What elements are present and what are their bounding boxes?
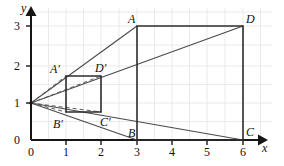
x-axis-label: x — [261, 141, 268, 155]
y-tick-label-3: 3 — [14, 19, 20, 33]
y-tick-label-1: 1 — [14, 96, 20, 110]
label-C: C — [246, 125, 255, 139]
center-of-projection-point — [29, 101, 33, 105]
geometry-figure: y x 3 2 1 0 0 1 2 3 4 5 6 A D B C A′ D′ … — [0, 0, 284, 166]
x-tick-label-2: 2 — [98, 145, 104, 159]
figure-background — [0, 0, 284, 166]
figure-canvas: y x 3 2 1 0 0 1 2 3 4 5 6 A D B C A′ D′ … — [0, 0, 284, 166]
x-tick-label-0: 0 — [28, 145, 34, 159]
x-tick-label-4: 4 — [169, 145, 175, 159]
x-tick-label-6: 6 — [240, 145, 246, 159]
y-tick-label-0: 0 — [14, 133, 20, 147]
label-C-prime: C′ — [100, 115, 111, 129]
label-B: B — [128, 126, 136, 140]
x-tick-label-1: 1 — [63, 145, 69, 159]
label-B-prime: B′ — [53, 117, 63, 131]
label-A: A — [127, 12, 136, 26]
y-tick-label-2: 2 — [14, 59, 20, 73]
x-tick-label-3: 3 — [134, 145, 140, 159]
label-D: D — [245, 12, 255, 26]
label-D-prime: D′ — [94, 61, 107, 75]
x-tick-label-5: 5 — [204, 145, 210, 159]
y-axis-label: y — [20, 1, 27, 15]
label-A-prime: A′ — [49, 62, 60, 76]
